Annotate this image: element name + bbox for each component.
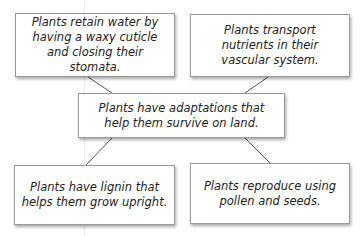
connector-bottom-left: [86, 138, 112, 165]
center-text: Plants have adaptations that help them s…: [85, 101, 278, 131]
node-text: Plants retain water by having a waxy cut…: [22, 15, 168, 75]
node-center: Plants have adaptations that help them s…: [78, 93, 285, 138]
connector-top-left: [88, 77, 112, 93]
node-top-right: Plants transport nutrients in their vasc…: [190, 14, 350, 77]
connector-bottom-right: [245, 138, 270, 163]
connector-top-right: [245, 77, 268, 93]
node-text: Plants have lignin that helps them grow …: [21, 180, 168, 210]
node-text: Plants transport nutrients in their vasc…: [197, 23, 343, 68]
node-text: Plants reproduce using pollen and seeds.: [197, 179, 343, 209]
node-bottom-left: Plants have lignin that helps them grow …: [14, 165, 175, 225]
node-bottom-right: Plants reproduce using pollen and seeds.: [190, 163, 350, 224]
node-top-left: Plants retain water by having a waxy cut…: [15, 13, 175, 77]
